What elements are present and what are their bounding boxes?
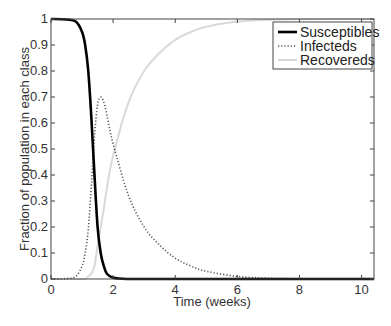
- y-tick-label: 0.6: [30, 115, 48, 130]
- legend-label-recovereds: Recovereds: [300, 52, 375, 68]
- y-tick-label: 1: [41, 11, 48, 26]
- x-tick-label: 0: [47, 282, 54, 297]
- y-tick-label: 0.8: [30, 63, 48, 78]
- y-tick-label: 0.5: [30, 141, 48, 156]
- y-tick-label: 0.9: [30, 37, 48, 52]
- y-tick-label: 0: [41, 271, 48, 286]
- sir-line-chart: 024681000.10.20.30.40.50.60.70.80.91 Tim…: [0, 0, 391, 326]
- x-tick-label: 10: [354, 282, 368, 297]
- y-axis-label: Fraction of population in each class: [17, 47, 32, 251]
- y-tick-label: 0.2: [30, 219, 48, 234]
- y-tick-label: 0.7: [30, 89, 48, 104]
- legend: SusceptiblesInfectedsRecovereds: [273, 22, 379, 69]
- y-tick-label: 0.1: [30, 245, 48, 260]
- x-axis-label: Time (weeks): [173, 294, 251, 309]
- x-tick-label: 2: [109, 282, 116, 297]
- y-tick-label: 0.4: [30, 167, 48, 182]
- y-tick-label: 0.3: [30, 193, 48, 208]
- x-tick-label: 8: [296, 282, 303, 297]
